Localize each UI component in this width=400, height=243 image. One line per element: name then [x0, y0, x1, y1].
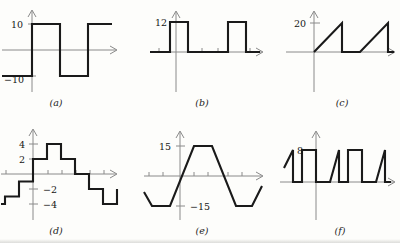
panel-a: 10 −10	[0, 4, 125, 96]
y-label-12-b: 12	[155, 17, 167, 28]
waveform-trace-c	[314, 23, 394, 52]
y-label-neg10-a: −10	[4, 74, 24, 85]
page-bottom-edge	[0, 239, 400, 243]
y-label-10-a: 10	[11, 19, 23, 30]
panel-d: 4 2 −2 −4	[0, 124, 125, 224]
y-label-8-f: 8	[297, 145, 303, 156]
y-label-2-d: 2	[19, 154, 25, 165]
caption-e: (e)	[182, 225, 222, 236]
caption-b: (b)	[182, 97, 222, 108]
caption-c: (c)	[322, 97, 362, 108]
panel-c: 20	[278, 4, 400, 96]
panel-e: 15 −15	[140, 124, 270, 224]
y-label-neg4-d: −4	[43, 199, 57, 210]
caption-a: (a)	[36, 97, 76, 108]
panel-e-plot: 15 −15	[140, 124, 270, 224]
panel-b: 12	[140, 4, 270, 96]
waveform-figure: 10 −10 (a) 12 (b) 20 (c	[0, 0, 400, 243]
panel-b-plot: 12	[140, 4, 270, 96]
panel-f-plot: 8	[278, 124, 400, 224]
y-label-15-e: 15	[159, 141, 171, 152]
panel-f: 8	[278, 124, 400, 224]
y-label-4-d: 4	[19, 139, 25, 150]
panel-d-plot: 4 2 −2 −4	[0, 124, 125, 224]
y-label-20-c: 20	[294, 18, 306, 29]
panel-c-plot: 20	[278, 4, 400, 96]
panel-a-plot: 10 −10	[0, 4, 125, 96]
y-label-neg15-e: −15	[190, 201, 210, 212]
caption-d: (d)	[36, 225, 76, 236]
caption-f: (f)	[320, 225, 360, 236]
y-label-neg2-d: −2	[43, 184, 57, 195]
